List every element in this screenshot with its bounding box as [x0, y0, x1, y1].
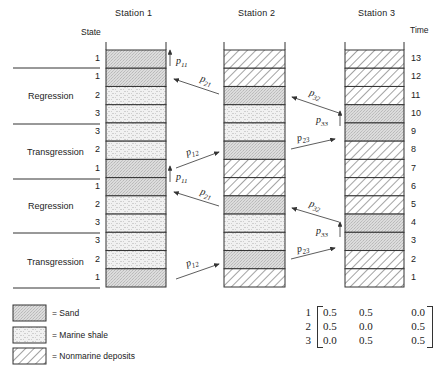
- layer-shale: [224, 232, 285, 250]
- station3-column: [345, 42, 404, 287]
- layer-hatch: [224, 50, 285, 68]
- layer-shale: [224, 214, 285, 232]
- label-p23-upper: p23: [296, 130, 311, 146]
- layer-hatch: [345, 68, 404, 86]
- matrix-right-bracket: [427, 306, 433, 348]
- layer-hatch: [224, 159, 285, 177]
- transition-matrix: 1 2 3 0.50.50.0 0.50.00.5 0.00.50.5: [303, 305, 443, 349]
- matrix-row-label: 2: [303, 319, 311, 333]
- matrix-row-label: 1: [303, 305, 311, 319]
- layer-sand: [345, 105, 404, 123]
- layer-hatch: [224, 68, 285, 86]
- layer-sand: [224, 86, 285, 104]
- layer-sand: [106, 50, 166, 68]
- layer-shale: [106, 232, 166, 250]
- layer-shale: [106, 86, 166, 104]
- matrix-cell: 0.0: [395, 305, 425, 319]
- matrix-cell: 0.5: [359, 333, 395, 347]
- layer-sand: [106, 68, 166, 86]
- station1-column: [106, 42, 166, 287]
- layer-sand: [345, 232, 404, 250]
- layer-shale: [224, 105, 285, 123]
- station-columns: [106, 42, 404, 287]
- phase-dividers: [13, 68, 100, 288]
- label-p33-lower: p33: [316, 225, 328, 239]
- layer-hatch: [345, 86, 404, 104]
- layer-hatch: [345, 178, 404, 196]
- matrix-cell: 0.5: [323, 305, 359, 319]
- layer-hatch: [345, 251, 404, 269]
- label-p33-upper: p33: [316, 114, 328, 128]
- layer-sand: [106, 178, 166, 196]
- layer-sand: [224, 141, 285, 159]
- layer-shale: [106, 251, 166, 269]
- label-p23-lower: p23: [296, 241, 311, 257]
- layer-sand: [224, 196, 285, 214]
- layer-hatch: [345, 50, 404, 68]
- layer-sand: [106, 269, 166, 287]
- arrow-p21-upper: [174, 79, 219, 94]
- label-p11-lower: p11: [176, 171, 187, 185]
- layer-hatch: [224, 178, 285, 196]
- matrix-cell: 0.5: [323, 319, 359, 333]
- layer-hatch: [224, 269, 285, 287]
- matrix-cell: 0.0: [323, 333, 359, 347]
- legend-label-nonmarine: = Nonmarine deposits: [52, 351, 135, 361]
- layer-sand: [224, 251, 285, 269]
- layer-shale: [106, 105, 166, 123]
- layer-sand: [345, 123, 404, 141]
- matrix-row-label: 3: [303, 333, 311, 347]
- layer-hatch: [345, 141, 404, 159]
- layer-hatch: [345, 159, 404, 177]
- layer-hatch: [345, 269, 404, 287]
- matrix-cell: 0.5: [395, 319, 425, 333]
- layer-shale: [224, 123, 285, 141]
- station2-column: [224, 42, 285, 287]
- layer-shale: [106, 123, 166, 141]
- legend-label-shale: = Marine shale: [52, 330, 108, 340]
- layer-shale: [106, 141, 166, 159]
- layer-shale: [106, 214, 166, 232]
- matrix-cell: 0.0: [359, 319, 395, 333]
- layer-sand: [345, 214, 404, 232]
- layer-hatch: [345, 196, 404, 214]
- layer-sand: [106, 159, 166, 177]
- layer-shale: [106, 196, 166, 214]
- label-p11-upper: p11: [176, 55, 187, 69]
- legend-label-sand: = Sand: [52, 308, 79, 318]
- matrix-cell: 0.5: [359, 305, 395, 319]
- matrix-cell: 0.5: [395, 333, 425, 347]
